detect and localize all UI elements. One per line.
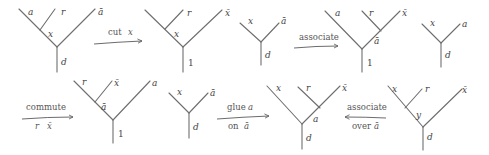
label: 1: [188, 58, 194, 68]
arrow-label: associate: [299, 32, 339, 42]
label: r: [306, 83, 311, 93]
label: x: [177, 87, 182, 97]
label: x: [248, 16, 253, 26]
arrow-sublabel-var: ā: [374, 121, 379, 131]
tree-1: a r ā x d: [19, 7, 103, 72]
label: x: [174, 29, 179, 39]
label: x̄: [225, 8, 230, 18]
label: a: [152, 78, 157, 88]
arrow-sublabel: x̄: [47, 121, 52, 131]
label: d: [193, 122, 199, 132]
arrow-associate: associate: [294, 32, 339, 48]
label: x: [276, 83, 281, 93]
arrow-label-var: x: [128, 27, 133, 37]
label: x̄: [462, 85, 467, 95]
tree-6: r x̄ a ā 1: [74, 77, 157, 143]
label: d: [265, 50, 271, 60]
label: d: [427, 132, 433, 142]
tree-9: x r x̄ y d: [388, 84, 467, 150]
arrow-label: associate: [347, 102, 387, 112]
label: r: [369, 8, 374, 18]
arrow-label: cut: [108, 27, 122, 37]
arrow-associate-over: associate over ā: [345, 102, 387, 131]
arrow-label-var: a: [248, 102, 253, 112]
label: r: [187, 8, 192, 18]
arrow-label: commute: [26, 102, 66, 112]
label: a: [335, 8, 340, 18]
label: r: [61, 7, 66, 17]
label: x̄: [342, 83, 347, 93]
tree-rewrite-diagram: a r ā x d cut x r x̄ x 1 x ā d associate: [0, 0, 489, 155]
arrow-sublabel-var: ā: [244, 121, 249, 131]
label: x̄: [402, 8, 407, 18]
tree-5: x a d: [422, 18, 467, 67]
label: 1: [118, 129, 124, 139]
label: x̄: [114, 78, 119, 88]
label: 1: [367, 58, 373, 68]
label: d: [445, 50, 451, 60]
label: ā: [101, 102, 106, 112]
arrow-commute: commute r x̄: [22, 102, 73, 131]
tree-3: x ā d: [240, 16, 286, 65]
label: y: [415, 110, 422, 120]
label: x: [392, 84, 397, 94]
label: a: [28, 7, 33, 17]
tree-8: x r x̄ a d: [267, 83, 347, 149]
arrow-label: glue: [227, 102, 246, 112]
tree-7: x ā d: [169, 87, 215, 138]
label: a: [462, 19, 467, 29]
arrow-cut: cut x: [94, 27, 142, 44]
label: x: [48, 29, 53, 39]
label: d: [61, 57, 67, 67]
arrow-glue: glue a on ā: [217, 102, 269, 131]
label: x: [430, 18, 435, 28]
label: ā: [374, 36, 379, 46]
diagram-canvas: a r ā x d cut x r x̄ x 1 x ā d associate: [0, 0, 489, 155]
tree-2: r x̄ x 1: [145, 8, 230, 72]
arrow-sublabel: on: [228, 121, 239, 131]
label: r: [82, 77, 87, 87]
label: ā: [210, 88, 215, 98]
label: d: [306, 133, 312, 143]
arrow-sublabel: r: [35, 121, 40, 131]
label: a: [313, 114, 318, 124]
label: ā: [281, 16, 286, 26]
arrow-sublabel: over: [352, 121, 372, 131]
label: ā: [98, 7, 103, 17]
label: r: [425, 84, 430, 94]
